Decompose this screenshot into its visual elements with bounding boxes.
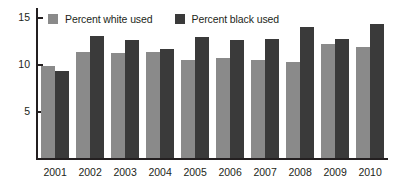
bar-group-2002 xyxy=(73,8,108,158)
bar-group-2010 xyxy=(353,8,388,158)
bar-2010-white-used xyxy=(356,47,370,159)
bar-2010-black-used xyxy=(370,24,384,158)
bar-group-2004 xyxy=(143,8,178,158)
x-axis-tick-label-2010: 2010 xyxy=(353,166,388,178)
x-axis-tick-label-2006: 2006 xyxy=(213,166,248,178)
y-axis-tick-label-10: 10 xyxy=(18,59,30,70)
bar-2008-white-used xyxy=(286,62,300,159)
bar-2005-black-used xyxy=(195,37,209,159)
x-axis-line xyxy=(36,158,388,160)
bar-group-2003 xyxy=(108,8,143,158)
x-axis-tick-label-2003: 2003 xyxy=(108,166,143,178)
bar-2004-white-used xyxy=(146,52,160,158)
bar-2006-white-used xyxy=(216,58,230,158)
bar-2004-black-used xyxy=(160,49,174,159)
x-axis-tick-label-2004: 2004 xyxy=(143,166,178,178)
y-axis-tick-label-15: 15 xyxy=(18,12,30,23)
x-axis-tick-label-2008: 2008 xyxy=(283,166,318,178)
x-axis-tick-label-2009: 2009 xyxy=(318,166,353,178)
x-axis-tick-label-2001: 2001 xyxy=(38,166,73,178)
bar-group-2005 xyxy=(178,8,213,158)
bar-group-2001 xyxy=(38,8,73,158)
bar-2009-white-used xyxy=(321,44,335,158)
x-axis-tick-label-2005: 2005 xyxy=(178,166,213,178)
bar-group-2009 xyxy=(318,8,353,158)
x-axis-tick-label-2007: 2007 xyxy=(248,166,283,178)
bars-layer xyxy=(38,8,388,158)
bar-2003-white-used xyxy=(111,53,125,158)
bar-2007-black-used xyxy=(265,39,279,158)
bar-2001-white-used xyxy=(41,66,55,159)
y-axis-tick-labels: 51015 xyxy=(4,8,30,160)
y-axis-tick-label-5: 5 xyxy=(24,106,30,117)
bar-2002-black-used xyxy=(90,36,104,159)
bar-2006-black-used xyxy=(230,40,244,158)
bar-group-2008 xyxy=(283,8,318,158)
bar-2008-black-used xyxy=(300,27,314,158)
bar-2007-white-used xyxy=(251,60,265,158)
plot-area: 51015 xyxy=(36,8,388,160)
x-axis-tick-labels: 2001200220032004200520062007200820092010 xyxy=(36,166,388,182)
bar-2005-white-used xyxy=(181,60,195,158)
bar-2009-black-used xyxy=(335,39,349,158)
bar-group-2007 xyxy=(248,8,283,158)
bar-2001-black-used xyxy=(55,71,69,158)
bar-2002-white-used xyxy=(76,52,90,159)
bar-group-2006 xyxy=(213,8,248,158)
x-axis-tick-label-2002: 2002 xyxy=(73,166,108,178)
bar-chart: Percent white used Percent black used 51… xyxy=(0,0,395,189)
bar-2003-black-used xyxy=(125,40,139,158)
